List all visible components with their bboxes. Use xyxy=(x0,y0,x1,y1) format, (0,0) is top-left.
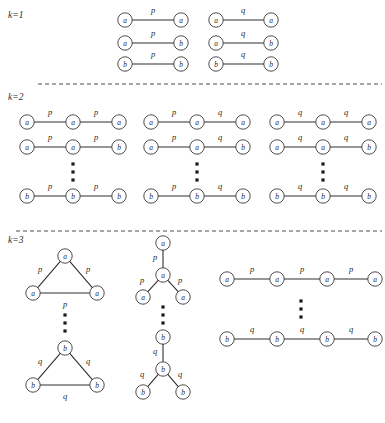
node-label-k1-col2-row2-0: a xyxy=(214,39,218,48)
k3-path-ellipsis-dot-2 xyxy=(299,315,302,318)
k3-star-ellipsis-dot-2 xyxy=(161,321,164,324)
node-label-k3-star-bottom-2: b xyxy=(141,388,145,397)
node-label-k2-col2-row2-2: b xyxy=(241,143,245,152)
k2-col1-ellipsis-dot-2 xyxy=(71,178,74,181)
node-label-k3-triangle-bottom-0: b xyxy=(63,344,67,353)
node-label-k2-col1-row2-0: a xyxy=(25,143,29,152)
node-label-k3-star-top-0: a xyxy=(161,239,165,248)
edge-label-k2-col1-row1-1: p xyxy=(93,107,98,117)
edge-label-k2-col2-row1-0: p xyxy=(171,107,176,117)
node-label-k2-col2-row3-2: b xyxy=(241,192,245,201)
node-label-k2-col1-row1-0: a xyxy=(25,118,29,127)
node-label-k2-col3-row3-0: b xyxy=(275,192,279,201)
node-label-k3-path-top-0: a xyxy=(225,275,229,284)
node-label-k2-col1-row3-0: b xyxy=(25,192,29,201)
node-label-k2-col3-row3-1: b xyxy=(321,192,325,201)
node-label-k1-col1-row2-0: a xyxy=(123,39,127,48)
edge-label-k3-triangle-top-1: p xyxy=(85,264,90,274)
graph-family-figure: k=1paapabpbbqaaqabqbbk=2ppaaappaabppbbbp… xyxy=(0,0,385,423)
node-label-k1-col1-row1-1: a xyxy=(179,16,183,25)
node-label-k1-col1-row1-0: a xyxy=(123,16,127,25)
node-label-k3-star-top-2: a xyxy=(141,293,145,302)
node-label-k2-col3-row1-1: a xyxy=(321,118,325,127)
k2-col1-ellipsis-dot-1 xyxy=(71,170,74,173)
node-label-k1-col2-row3-0: b xyxy=(214,60,218,69)
edge-label-k2-col1-row1-0: p xyxy=(47,107,52,117)
k3-triangle-ellipsis-dot-1 xyxy=(63,321,66,324)
edge-label-k2-col1-row2-1: p xyxy=(93,132,98,142)
node-label-k2-col3-row2-1: a xyxy=(321,143,325,152)
node-label-k3-star-top-1: a xyxy=(161,271,165,280)
node-label-k3-star-bottom-3: b xyxy=(181,388,185,397)
node-label-k3-path-bottom-3: b xyxy=(373,335,377,344)
k3-triangle-ellipsis xyxy=(63,313,66,332)
k2-col1-ellipsis-dot-0 xyxy=(71,162,74,165)
edge-label-k3-star-top-1: p xyxy=(139,275,144,285)
edge-label-k2-col1-row3-0: p xyxy=(47,181,52,191)
node-label-k2-col2-row2-0: a xyxy=(149,143,153,152)
node-label-k2-col1-row2-2: b xyxy=(117,143,121,152)
edge-label-k3-path-top-0: p xyxy=(249,264,254,274)
k3-triangle-ellipsis-dot-0 xyxy=(63,313,66,316)
node-label-k2-col3-row3-2: b xyxy=(367,192,371,201)
k3-triangle-ellipsis-dot-2 xyxy=(63,329,66,332)
edge-label-k2-col2-row3-0: p xyxy=(171,181,176,191)
node-label-k3-path-top-3: a xyxy=(373,275,377,284)
node-label-k3-triangle-bottom-1: b xyxy=(31,381,35,390)
k2-col3-ellipsis-dot-1 xyxy=(321,170,324,173)
node-label-k2-col2-row2-1: a xyxy=(195,143,199,152)
edge-label-k3-triangle-top-0: p xyxy=(37,264,42,274)
node-label-k1-col1-row3-0: b xyxy=(123,60,127,69)
k2-col3-ellipsis-dot-2 xyxy=(321,178,324,181)
edge-label-k1-col1-row3-0: p xyxy=(150,49,155,59)
edge-label-k2-col1-row3-1: p xyxy=(93,181,98,191)
edge-label-k3-star-top-0: p xyxy=(152,252,157,262)
node-label-k1-col1-row2-1: b xyxy=(179,39,183,48)
node-label-k3-path-top-2: a xyxy=(325,275,329,284)
k2-col2-ellipsis-dot-2 xyxy=(195,178,198,181)
node-label-k3-star-bottom-0: b xyxy=(161,333,165,342)
node-label-k1-col2-row1-1: a xyxy=(269,16,273,25)
node-label-k2-col3-row2-0: a xyxy=(275,143,279,152)
node-label-k3-path-bottom-0: b xyxy=(225,335,229,344)
edge-label-k2-col2-row2-0: p xyxy=(171,132,176,142)
figure-background xyxy=(0,0,385,423)
node-label-k1-col2-row3-1: b xyxy=(269,60,273,69)
node-label-k2-col1-row1-2: a xyxy=(117,118,121,127)
node-label-k2-col1-row3-2: b xyxy=(117,192,121,201)
node-label-k1-col2-row2-1: b xyxy=(269,39,273,48)
node-label-k3-star-bottom-1: b xyxy=(161,365,165,374)
k3-star-ellipsis-dot-0 xyxy=(161,305,164,308)
k2-col1-ellipsis xyxy=(71,162,74,181)
section-label-k2: k=2 xyxy=(8,92,24,102)
node-label-k2-col2-row1-2: a xyxy=(241,118,245,127)
node-label-k2-col2-row3-0: b xyxy=(149,192,153,201)
node-label-k2-col2-row3-1: b xyxy=(195,192,199,201)
edge-label-k1-col1-row1-0: p xyxy=(150,5,155,15)
node-label-k3-triangle-top-2: a xyxy=(95,289,99,298)
section-label-k1: k=1 xyxy=(8,10,23,20)
section-label-k3: k=3 xyxy=(8,235,24,245)
node-label-k2-col3-row1-2: a xyxy=(367,118,371,127)
edge-label-k3-path-top-2: p xyxy=(348,264,353,274)
k3-path-ellipsis-dot-0 xyxy=(299,299,302,302)
k2-col2-ellipsis xyxy=(195,162,198,181)
k3-star-ellipsis xyxy=(161,305,164,324)
node-label-k3-star-top-3: a xyxy=(181,293,185,302)
k3-path-ellipsis-dot-1 xyxy=(299,307,302,310)
node-label-k1-col2-row1-0: a xyxy=(214,16,218,25)
node-label-k1-col1-row3-1: b xyxy=(179,60,183,69)
node-label-k3-path-bottom-2: b xyxy=(325,335,329,344)
node-label-k3-path-bottom-1: b xyxy=(275,335,279,344)
node-label-k2-col1-row3-1: b xyxy=(71,192,75,201)
edge-label-k1-col1-row2-0: p xyxy=(150,28,155,38)
k3-path-ellipsis xyxy=(299,299,302,318)
k3-star-ellipsis-dot-1 xyxy=(161,313,164,316)
k2-col2-ellipsis-dot-0 xyxy=(195,162,198,165)
node-label-k2-col1-row1-1: a xyxy=(71,118,75,127)
edge-label-k3-path-top-1: p xyxy=(299,264,304,274)
node-label-k3-triangle-top-0: a xyxy=(63,252,67,261)
k2-col2-ellipsis-dot-1 xyxy=(195,170,198,173)
node-label-k3-path-top-1: a xyxy=(275,275,279,284)
node-label-k3-triangle-bottom-2: b xyxy=(95,381,99,390)
